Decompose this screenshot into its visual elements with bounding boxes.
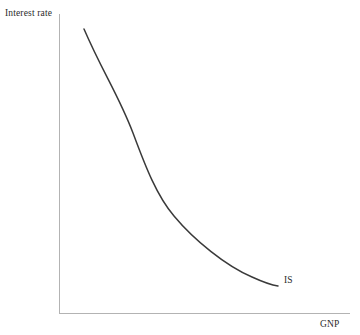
plot-area [0, 0, 360, 335]
is-curve [84, 29, 278, 286]
is-curve-label: IS [284, 274, 293, 286]
x-axis-label: GNP [320, 318, 339, 330]
is-curve-figure: Interest rate GNP IS [0, 0, 360, 335]
y-axis-label: Interest rate [5, 7, 52, 19]
